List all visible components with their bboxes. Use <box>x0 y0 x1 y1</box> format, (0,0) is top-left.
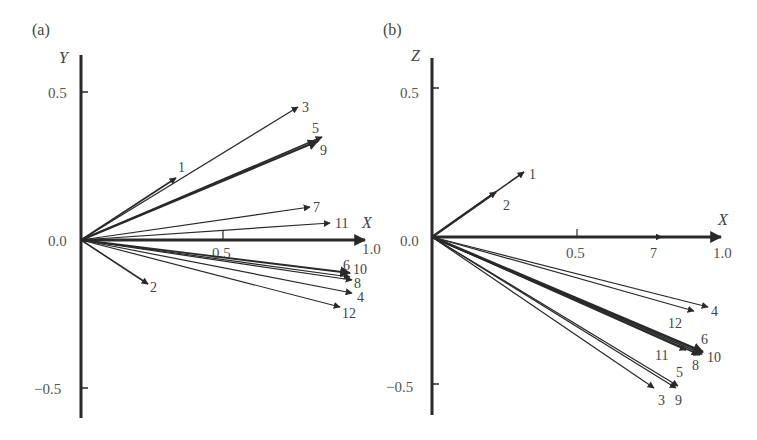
vector-label-b-10: 10 <box>707 350 721 365</box>
vector-label-5: 5 <box>312 121 319 136</box>
vector-3 <box>81 107 298 240</box>
vector-label-12: 12 <box>342 306 356 321</box>
vector-label-b-8: 8 <box>692 358 699 373</box>
panel-a: (a) Y 0.5 0.0 −0.5 0.5 1.0 X <box>32 21 381 418</box>
panel-b-label: (b) <box>383 21 402 39</box>
figure: (a) Y 0.5 0.0 −0.5 0.5 1.0 X <box>0 0 757 440</box>
y-tick-label-neg: −0.5 <box>34 381 61 397</box>
vector-label-b-7: 7 <box>650 246 657 261</box>
vector-b-3 <box>432 237 654 388</box>
vector-b-9 <box>432 237 678 386</box>
vector-label-1: 1 <box>178 160 185 175</box>
y-axis-label: Y <box>59 49 70 66</box>
vector-label-b-9: 9 <box>675 393 682 408</box>
panel-a-label: (a) <box>32 21 50 39</box>
vector-label-10: 10 <box>353 262 367 277</box>
vector-b-11 <box>432 237 686 350</box>
vector-12 <box>81 240 340 307</box>
vector-9 <box>81 141 318 240</box>
vector-label-7: 7 <box>313 200 320 215</box>
vector-label-3: 3 <box>302 100 309 115</box>
vector-7 <box>81 207 310 240</box>
vector-label-b-5: 5 <box>676 365 683 380</box>
y-tick-label-pos: 0.5 <box>48 85 67 101</box>
x-axis-label-b: X <box>717 211 729 228</box>
y-tick-label-zero: 0.0 <box>48 233 67 249</box>
vector-b-2 <box>432 192 496 237</box>
vector-label-9: 9 <box>320 143 327 158</box>
vector-label-6: 6 <box>343 258 350 273</box>
vector-label-4: 4 <box>357 290 364 305</box>
z-tick-label-zero: 0.0 <box>400 233 419 249</box>
vector-label-b-12: 12 <box>668 316 682 331</box>
vector-label-b-1: 1 <box>529 167 536 182</box>
vector-label-b-6: 6 <box>701 332 708 347</box>
z-tick-label-neg: −0.5 <box>386 379 413 395</box>
x-tick-label-one: 1.0 <box>362 241 381 257</box>
z-tick-label-pos: 0.5 <box>400 85 419 101</box>
vector-label-b-4: 4 <box>711 304 718 319</box>
vector-label-11: 11 <box>335 216 348 231</box>
vector-label-b-11: 11 <box>655 348 668 363</box>
panel-b: (b) Z 0.5 0.0 −0.5 0.5 1.0 X <box>383 21 732 415</box>
vectors-a <box>81 107 352 307</box>
x-tick-label-b-half: 0.5 <box>566 245 585 261</box>
vector-label-b-2: 2 <box>503 198 510 213</box>
x-tick-label-b-one: 1.0 <box>713 245 732 261</box>
x-axis-label: X <box>361 214 373 231</box>
vector-label-2: 2 <box>150 280 157 295</box>
vector-label-b-3: 3 <box>658 393 665 408</box>
vector-label-8: 8 <box>354 276 361 291</box>
z-axis-label: Z <box>411 47 421 64</box>
